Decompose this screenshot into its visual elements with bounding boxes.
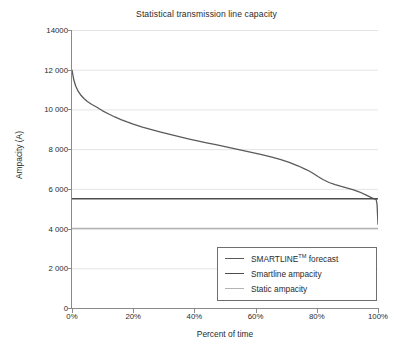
x-tick-mark xyxy=(72,309,73,313)
y-tick-label: 6 000 xyxy=(24,184,68,193)
y-tick-mark xyxy=(67,268,72,269)
chart-figure: Statistical transmission line capacity 0… xyxy=(0,0,413,354)
legend-label: Static ampacity xyxy=(251,284,307,294)
y-tick-label: 8 000 xyxy=(24,145,68,154)
legend-item[interactable]: SMARTLINETM forecast xyxy=(218,251,376,266)
x-tick-label: 40% xyxy=(169,312,219,321)
y-tick-mark xyxy=(67,70,72,71)
x-tick-mark xyxy=(317,309,318,313)
y-tick-mark xyxy=(67,109,72,110)
legend-swatch xyxy=(225,273,244,274)
legend-label: Smartline ampacity xyxy=(251,269,322,279)
legend-item[interactable]: Smartline ampacity xyxy=(218,266,376,281)
x-axis-title: Percent of time xyxy=(72,329,378,339)
series-line-0 xyxy=(72,70,378,224)
x-tick-label: 0% xyxy=(47,312,97,321)
legend-swatch xyxy=(225,288,244,289)
x-tick-mark xyxy=(256,309,257,313)
y-tick-label: 10 000 xyxy=(24,105,68,114)
y-tick-label: 4 000 xyxy=(24,224,68,233)
x-tick-mark xyxy=(133,309,134,313)
x-tick-label: 80% xyxy=(292,312,342,321)
y-tick-mark xyxy=(67,149,72,150)
legend-label: SMARTLINETM forecast xyxy=(251,254,338,264)
y-tick-mark xyxy=(67,229,72,230)
legend-swatch xyxy=(225,258,244,259)
y-tick-label: 14000 xyxy=(24,26,68,35)
y-tick-label: 12 000 xyxy=(24,65,68,74)
x-axis-line xyxy=(71,308,379,309)
x-tick-label: 60% xyxy=(231,312,281,321)
y-tick-label-group: 02 0004 0006 0008 00010 00012 00014000 xyxy=(20,0,68,354)
x-tick-mark xyxy=(194,309,195,313)
x-tick-label: 100% xyxy=(353,312,403,321)
gridlines xyxy=(72,31,378,269)
chart-legend: SMARTLINETM forecastSmartline ampacitySt… xyxy=(217,247,377,301)
legend-item[interactable]: Static ampacity xyxy=(218,281,376,296)
x-tick-mark xyxy=(378,309,379,313)
y-tick-label: 2 000 xyxy=(24,264,68,273)
y-axis-title: Ampacity (A) xyxy=(14,110,24,200)
y-axis-line xyxy=(71,30,72,309)
y-tick-mark xyxy=(67,30,72,31)
x-tick-label: 20% xyxy=(108,312,158,321)
y-tick-mark xyxy=(67,189,72,190)
